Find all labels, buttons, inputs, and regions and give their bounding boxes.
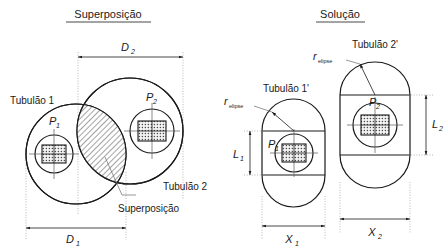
label-p2-sub: 2	[152, 98, 157, 105]
dimension-label-x2: X	[367, 226, 376, 238]
dimension-sub-x2: 2	[377, 233, 382, 240]
figure-canvas: Superposição	[0, 0, 448, 248]
dimension-label-x1: X	[284, 233, 293, 245]
label-p1-prime-sub: 1	[275, 145, 279, 152]
dimension-sub-l1: 1	[240, 155, 244, 162]
label-tubulao-1-prime: Tubulão 1'	[263, 83, 309, 94]
label-tubulao-2-prime: Tubulão 2'	[352, 39, 398, 50]
label-r-elipse-1-sub: elipse	[229, 103, 243, 109]
dimension-label-d1: D	[66, 233, 74, 245]
dimension-label-l1: L	[233, 148, 239, 160]
dimension-label-l2: L	[432, 118, 438, 130]
label-tubulao-1: Tubulão 1	[10, 95, 55, 106]
panel-title-solucao: Solução	[320, 8, 360, 20]
engineering-diagram: Superposição	[0, 0, 448, 248]
panel-title-superposicao: Superposição	[74, 8, 141, 20]
dimension-sub-x1: 1	[295, 240, 299, 247]
callout-label-superposicao: Superposição	[118, 203, 180, 214]
dimension-label-d2: D	[121, 41, 129, 53]
label-r-elipse-2-sub: elipse	[318, 58, 332, 64]
label-p1-sub: 1	[56, 122, 60, 129]
dimension-sub-d1: 1	[76, 240, 80, 247]
label-tubulao-2: Tubulão 2	[163, 181, 208, 192]
label-p2-prime-sub: 2	[375, 103, 380, 110]
dimension-sub-l2: 2	[438, 125, 443, 132]
dimension-sub-d2: 2	[130, 48, 135, 55]
